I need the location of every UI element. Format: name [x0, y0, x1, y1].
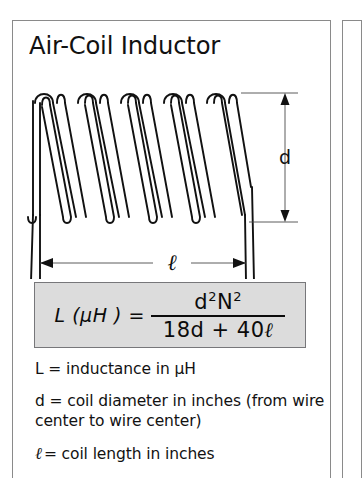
- denominator-terms: 18d + 40: [163, 318, 265, 342]
- legend-item-diameter: d = coil diameter in inches (from wire c…: [35, 391, 325, 431]
- legend-item-inductance: L = inductance in μH: [35, 359, 325, 379]
- dimension-arrow-right: [233, 258, 246, 268]
- numerator-d: d: [194, 290, 208, 314]
- numerator-d-exponent: 2: [208, 289, 217, 304]
- denominator-ell: ℓ: [265, 318, 274, 342]
- legend-item-length: ℓ= coil length in inches: [35, 443, 325, 464]
- formula-box: L (μH ) = d2N2 18d + 40ℓ: [34, 282, 306, 348]
- inductance-formula: L (μH ) = d2N2 18d + 40ℓ: [55, 290, 286, 341]
- formula-fraction: d2N2 18d + 40ℓ: [151, 290, 286, 341]
- air-coil-inductor-diagram: d ℓ: [13, 67, 330, 279]
- legend-length-text: = coil length in inches: [44, 445, 215, 463]
- formula-denominator: 18d + 40ℓ: [151, 315, 286, 341]
- page-title: Air-Coil Inductor: [29, 31, 220, 60]
- legend-ell-symbol: ℓ: [35, 443, 44, 463]
- formula-lhs: L (μH ) =: [55, 304, 145, 326]
- dimension-arrow-left: [40, 258, 53, 268]
- length-label: ℓ: [167, 250, 177, 275]
- air-coil-inductor-panel: Air-Coil Inductor: [12, 20, 331, 478]
- dimension-arrow-down: [281, 210, 290, 222]
- legend-list: L = inductance in μH d = coil diameter i…: [35, 359, 325, 464]
- adjacent-panel: [342, 20, 362, 478]
- numerator-n-exponent: 2: [233, 289, 242, 304]
- formula-numerator: d2N2: [182, 290, 254, 315]
- dimension-arrow-up: [281, 93, 290, 105]
- diameter-label: d: [279, 146, 291, 168]
- numerator-n: N: [217, 290, 233, 314]
